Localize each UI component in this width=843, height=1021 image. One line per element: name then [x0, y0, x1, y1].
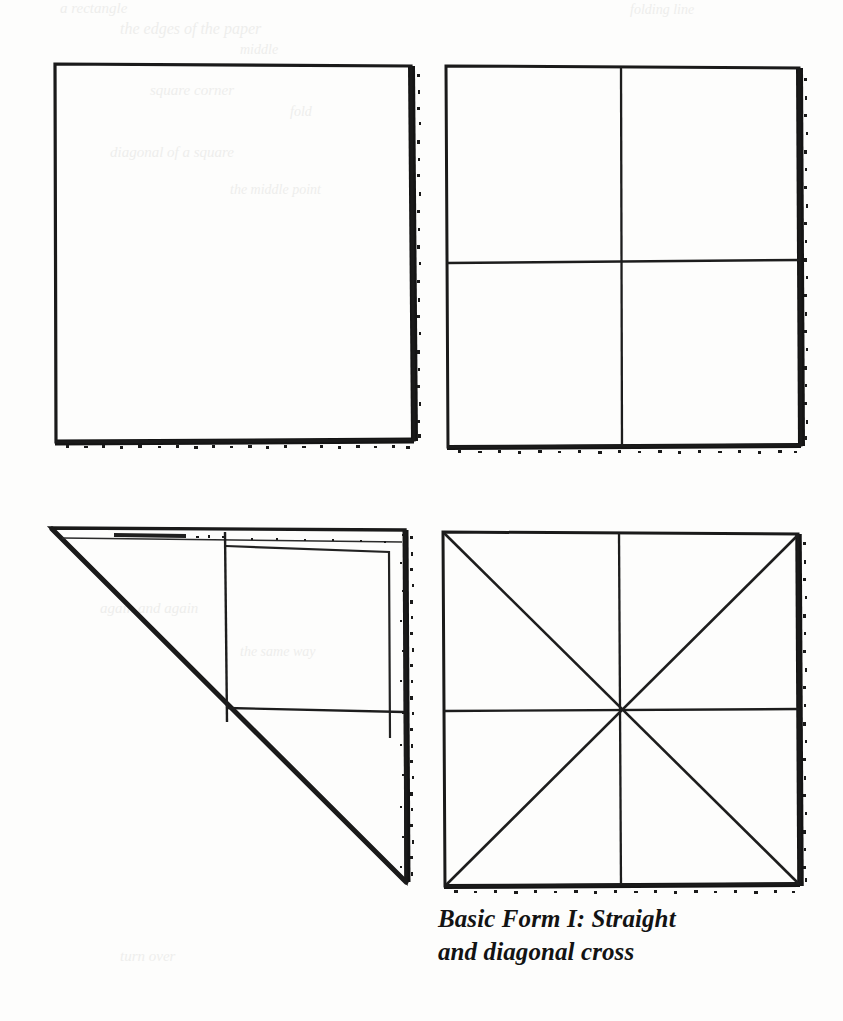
folded-layer-top-edge: [62, 538, 402, 542]
crease-diagonal-fold: [52, 529, 406, 882]
ghost-text: folding line: [630, 2, 694, 18]
figure-square-with-straight-cross: [430, 54, 830, 466]
figure-plain-square: [40, 52, 440, 462]
figure-square-folded-on-diagonal: [36, 516, 436, 906]
caption-line-2: and diagonal cross: [438, 935, 798, 968]
crease-horizontal-centre: [447, 260, 800, 263]
straight-cross-drawing: [430, 54, 830, 466]
caption-line-1: Basic Form I: Straight: [438, 902, 798, 935]
straight-and-diagonal-cross-drawing: [428, 520, 828, 910]
plain-square-drawing: [40, 52, 440, 462]
ink-smudge-top: [114, 535, 186, 536]
ink-speckle: [458, 78, 808, 454]
crease-vertical-centre: [621, 67, 622, 446]
crease-vertical-centre: [225, 532, 227, 722]
square-outline: [55, 64, 414, 442]
figure-caption: Basic Form I: Straight and diagonal cros…: [438, 902, 798, 968]
ghost-text: the edges of the paper: [120, 20, 261, 38]
diagonal-fold-drawing: [36, 516, 436, 906]
page-canvas: a rectangle folding line the edges of th…: [0, 0, 843, 1021]
crease-horizontal-centre: [227, 708, 404, 712]
ghost-text: a rectangle: [60, 0, 127, 17]
square-outline: [446, 66, 801, 447]
ink-speckle: [66, 74, 421, 449]
ghost-text: turn over: [120, 948, 175, 965]
figure-square-with-straight-and-diagonal-cross: [428, 520, 828, 910]
